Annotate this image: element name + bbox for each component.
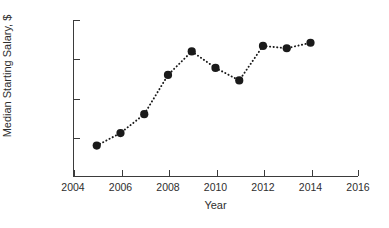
x-tick-label: 2006 [96,181,146,193]
x-axis-title: Year [73,199,358,211]
x-tick-label: 2012 [238,181,288,193]
y-tick-mark [74,20,80,21]
x-tick-mark [169,170,170,176]
y-tick-mark [74,99,80,100]
x-tick-label: 2010 [191,181,241,193]
plot-area: 70000 65000 60000 55000 50000 [73,20,358,177]
x-tick-label: 2016 [333,181,383,193]
y-tick-mark [74,176,80,177]
x-tick-mark [264,170,265,176]
y-tick-mark [74,59,80,60]
x-tick-label: 2004 [48,181,98,193]
salary-line-chart: 70000 65000 60000 55000 50000 2004 2006 … [0,0,389,228]
x-tick-mark [312,170,313,176]
x-tick-label: 2008 [143,181,193,193]
x-tick-label: 2014 [286,181,336,193]
y-tick-mark [74,138,80,139]
x-tick-mark [358,170,359,176]
x-tick-mark [217,170,218,176]
y-axis-title: Median Starting Salary, $ [1,0,13,176]
x-tick-mark [74,170,75,176]
x-tick-mark [122,170,123,176]
